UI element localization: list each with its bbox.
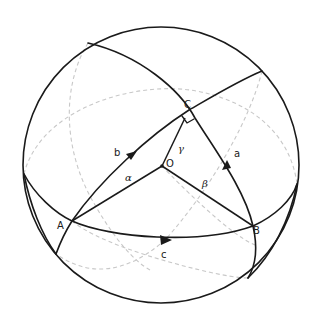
center-point-O <box>160 164 164 168</box>
radius-OB <box>162 166 253 226</box>
label-beta: β <box>201 178 208 189</box>
radii <box>72 118 253 226</box>
hidden-arc-equator-back <box>24 89 297 184</box>
label-alpha: α <box>125 172 132 183</box>
spherical-triangle-diagram: C O A B b a c α β γ <box>0 0 320 327</box>
label-A: A <box>57 220 64 231</box>
arrow-c-icon <box>160 235 172 245</box>
label-gamma: γ <box>178 143 184 154</box>
hidden-arc-ob-extension <box>162 166 255 245</box>
label-C: C <box>184 99 191 110</box>
arc-through-A-and-C <box>72 71 262 221</box>
label-side-b: b <box>114 147 120 158</box>
label-side-a: a <box>234 148 240 159</box>
label-side-c: c <box>161 249 167 260</box>
visible-arcs <box>24 43 297 278</box>
arc-left-outer <box>24 174 56 254</box>
radius-OA <box>72 166 162 221</box>
hidden-arc-right-meridian <box>56 71 262 269</box>
label-O: O <box>166 158 174 169</box>
label-B: B <box>253 225 260 236</box>
diagram-canvas: C O A B b a c α β γ <box>0 0 320 327</box>
